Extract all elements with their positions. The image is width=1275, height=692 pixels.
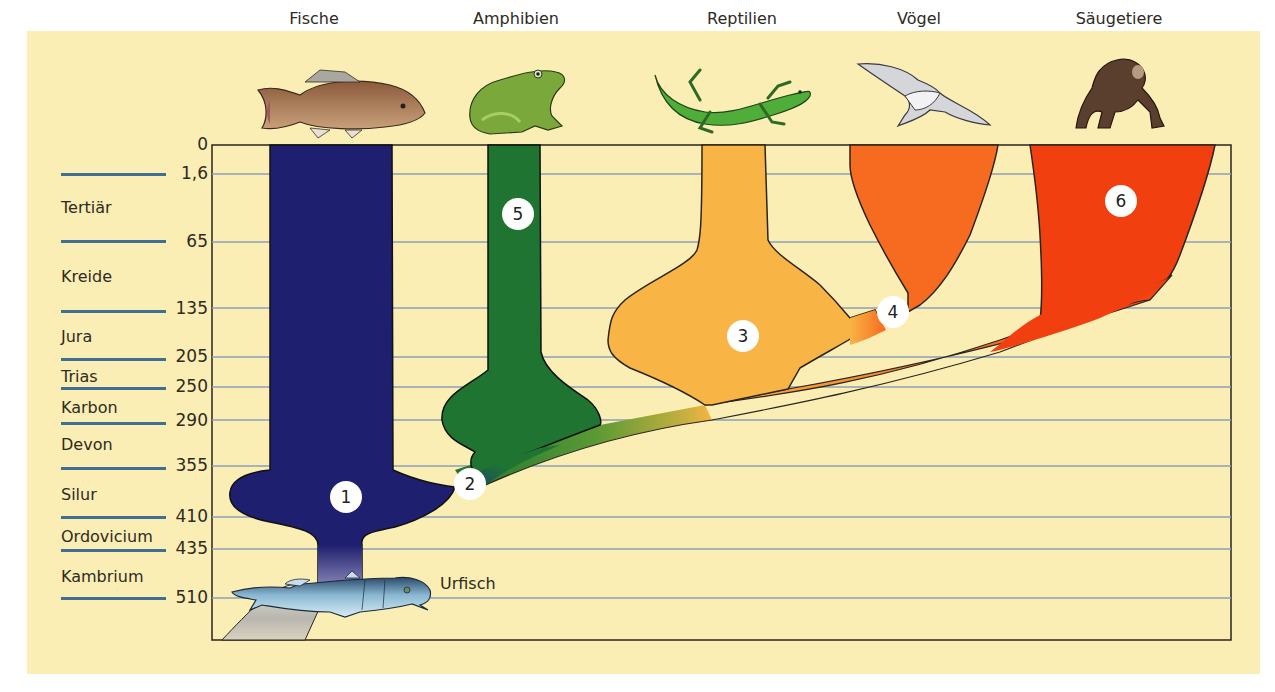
chimpanzee-icon (1076, 59, 1164, 128)
marker-4: 4 (877, 296, 909, 328)
marker-4-label: 4 (888, 302, 899, 322)
origin-label-urfisch: Urfisch (440, 574, 496, 593)
marker-1: 1 (330, 481, 362, 513)
marker-6: 6 (1105, 185, 1137, 217)
marker-2-label: 2 (465, 474, 476, 494)
marker-3-label: 3 (738, 326, 749, 346)
frog-icon (470, 70, 565, 134)
marker-5-label: 5 (513, 204, 524, 224)
marker-3: 3 (727, 320, 759, 352)
phylogeny-diagram: 1 2 3 4 5 6 (0, 0, 1275, 692)
marker-1-label: 1 (341, 487, 352, 507)
seagull-icon (858, 64, 990, 126)
lizard-icon (655, 70, 810, 132)
marker-5: 5 (502, 198, 534, 230)
marker-6-label: 6 (1116, 191, 1127, 211)
marker-2: 2 (454, 468, 486, 500)
carp-fish-icon (258, 70, 425, 138)
